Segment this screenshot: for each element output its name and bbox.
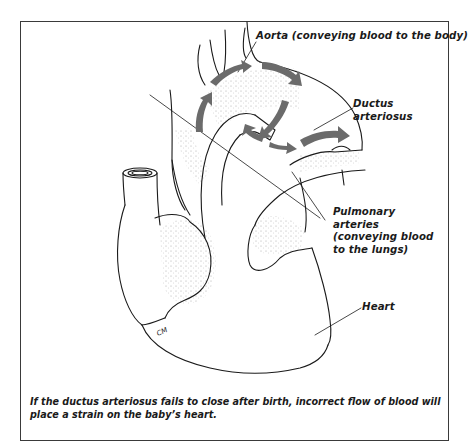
label-pulmonary-line-3: (conveying blood — [333, 231, 433, 244]
label-pulmonary-line-1: Pulmonary — [333, 206, 433, 219]
arrow-descending — [300, 126, 350, 147]
label-pulmonary-line-4: to the lungs) — [333, 244, 433, 257]
label-aorta: Aorta (conveying blood to the body) — [256, 30, 468, 43]
label-heart: Heart — [362, 301, 395, 314]
arrow-pulmonary — [269, 142, 297, 154]
label-pulmonary-arteries: Pulmonary arteries (conveying blood to t… — [333, 206, 433, 256]
label-ductus-line-2: arteriosus — [353, 111, 413, 124]
arrow-ascending — [196, 92, 212, 132]
stipple-shading — [160, 67, 360, 304]
artist-signature: CM — [155, 326, 168, 338]
label-ductus-arteriosus: Ductus arteriosus — [353, 98, 413, 123]
figure-caption: If the ductus arteriosus fails to close … — [30, 395, 450, 421]
label-ductus-line-1: Ductus — [353, 98, 413, 111]
label-pulmonary-line-2: arteries — [333, 219, 433, 232]
